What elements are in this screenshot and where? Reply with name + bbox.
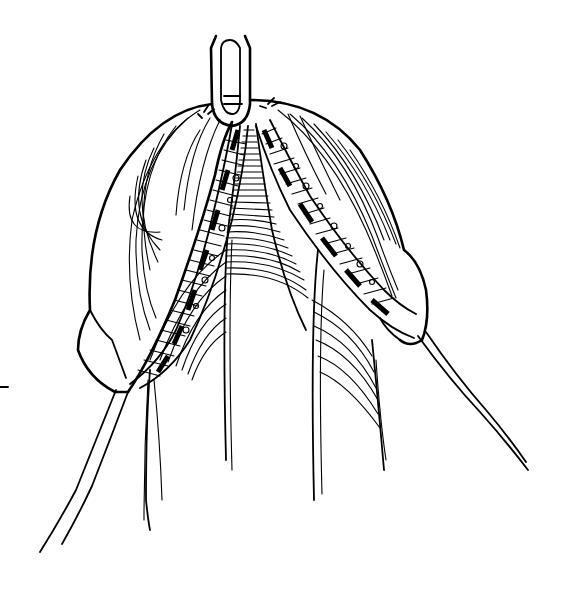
surgical-line-illustration: [0, 0, 567, 595]
illustration-canvas: [0, 0, 567, 595]
retractor-clamp: [211, 36, 250, 126]
left-suture-threads: [40, 390, 128, 552]
right-suture-threads: [418, 332, 528, 470]
right-suture-band: [256, 120, 416, 338]
left-flap: [78, 104, 232, 392]
